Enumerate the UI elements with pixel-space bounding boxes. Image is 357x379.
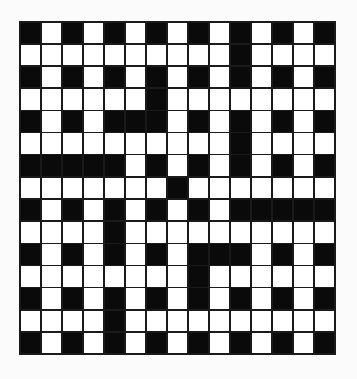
answer-cell[interactable] [42, 288, 62, 309]
answer-cell[interactable] [168, 222, 188, 243]
answer-cell[interactable] [42, 45, 62, 66]
answer-cell[interactable] [210, 222, 230, 243]
answer-cell[interactable] [294, 288, 314, 309]
answer-cell[interactable] [252, 288, 272, 309]
answer-cell[interactable] [84, 288, 104, 309]
answer-cell[interactable] [84, 45, 104, 66]
answer-cell[interactable] [189, 89, 209, 110]
answer-cell[interactable] [63, 45, 83, 66]
answer-cell[interactable] [21, 266, 41, 287]
answer-cell[interactable] [273, 45, 293, 66]
answer-cell[interactable] [147, 45, 167, 66]
answer-cell[interactable] [168, 244, 188, 265]
answer-cell[interactable] [252, 155, 272, 176]
answer-cell[interactable] [126, 178, 146, 199]
answer-cell[interactable] [126, 222, 146, 243]
answer-cell[interactable] [126, 244, 146, 265]
answer-cell[interactable] [84, 89, 104, 110]
answer-cell[interactable] [126, 288, 146, 309]
answer-cell[interactable] [189, 222, 209, 243]
answer-cell[interactable] [126, 266, 146, 287]
answer-cell[interactable] [42, 67, 62, 88]
answer-cell[interactable] [42, 311, 62, 332]
answer-cell[interactable] [210, 23, 230, 44]
answer-cell[interactable] [126, 67, 146, 88]
answer-cell[interactable] [294, 67, 314, 88]
answer-cell[interactable] [168, 89, 188, 110]
answer-cell[interactable] [210, 155, 230, 176]
answer-cell[interactable] [168, 23, 188, 44]
answer-cell[interactable] [210, 200, 230, 221]
answer-cell[interactable] [42, 89, 62, 110]
answer-cell[interactable] [21, 178, 41, 199]
answer-cell[interactable] [84, 311, 104, 332]
answer-cell[interactable] [252, 244, 272, 265]
answer-cell[interactable] [84, 222, 104, 243]
answer-cell[interactable] [294, 266, 314, 287]
answer-cell[interactable] [168, 67, 188, 88]
answer-cell[interactable] [294, 45, 314, 66]
answer-cell[interactable] [273, 222, 293, 243]
answer-cell[interactable] [21, 89, 41, 110]
answer-cell[interactable] [84, 266, 104, 287]
answer-cell[interactable] [84, 111, 104, 132]
answer-cell[interactable] [252, 89, 272, 110]
answer-cell[interactable] [210, 111, 230, 132]
answer-cell[interactable] [294, 244, 314, 265]
answer-cell[interactable] [105, 45, 125, 66]
answer-cell[interactable] [294, 23, 314, 44]
answer-cell[interactable] [168, 111, 188, 132]
answer-cell[interactable] [315, 266, 335, 287]
answer-cell[interactable] [252, 133, 272, 154]
answer-cell[interactable] [105, 178, 125, 199]
answer-cell[interactable] [168, 200, 188, 221]
answer-cell[interactable] [189, 133, 209, 154]
answer-cell[interactable] [126, 23, 146, 44]
answer-cell[interactable] [210, 311, 230, 332]
answer-cell[interactable] [294, 222, 314, 243]
answer-cell[interactable] [231, 266, 251, 287]
answer-cell[interactable] [168, 266, 188, 287]
answer-cell[interactable] [273, 133, 293, 154]
answer-cell[interactable] [84, 133, 104, 154]
answer-cell[interactable] [147, 133, 167, 154]
answer-cell[interactable] [42, 244, 62, 265]
answer-cell[interactable] [252, 333, 272, 354]
answer-cell[interactable] [42, 222, 62, 243]
answer-cell[interactable] [252, 266, 272, 287]
answer-cell[interactable] [147, 311, 167, 332]
answer-cell[interactable] [63, 266, 83, 287]
answer-cell[interactable] [42, 200, 62, 221]
answer-cell[interactable] [231, 178, 251, 199]
answer-cell[interactable] [63, 178, 83, 199]
answer-cell[interactable] [21, 45, 41, 66]
answer-cell[interactable] [84, 244, 104, 265]
answer-cell[interactable] [294, 311, 314, 332]
answer-cell[interactable] [126, 200, 146, 221]
answer-cell[interactable] [294, 178, 314, 199]
answer-cell[interactable] [210, 89, 230, 110]
answer-cell[interactable] [126, 133, 146, 154]
answer-cell[interactable] [189, 311, 209, 332]
answer-cell[interactable] [84, 23, 104, 44]
answer-cell[interactable] [210, 333, 230, 354]
answer-cell[interactable] [210, 288, 230, 309]
answer-cell[interactable] [84, 200, 104, 221]
answer-cell[interactable] [126, 311, 146, 332]
answer-cell[interactable] [252, 222, 272, 243]
answer-cell[interactable] [315, 45, 335, 66]
answer-cell[interactable] [147, 222, 167, 243]
answer-cell[interactable] [168, 288, 188, 309]
answer-cell[interactable] [315, 89, 335, 110]
answer-cell[interactable] [231, 222, 251, 243]
answer-cell[interactable] [168, 133, 188, 154]
answer-cell[interactable] [273, 178, 293, 199]
answer-cell[interactable] [252, 311, 272, 332]
answer-cell[interactable] [294, 133, 314, 154]
answer-cell[interactable] [252, 111, 272, 132]
answer-cell[interactable] [21, 311, 41, 332]
answer-cell[interactable] [63, 89, 83, 110]
answer-cell[interactable] [126, 333, 146, 354]
answer-cell[interactable] [273, 311, 293, 332]
answer-cell[interactable] [231, 311, 251, 332]
